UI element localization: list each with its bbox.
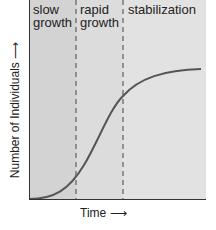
- plot-area: slowgrowth rapidgrowth stabilization: [29, 0, 206, 200]
- y-axis-label: Number of Individuals ⟶: [8, 25, 22, 195]
- growth-curve: [29, 0, 206, 200]
- x-axis-label: Time ⟶: [80, 206, 127, 220]
